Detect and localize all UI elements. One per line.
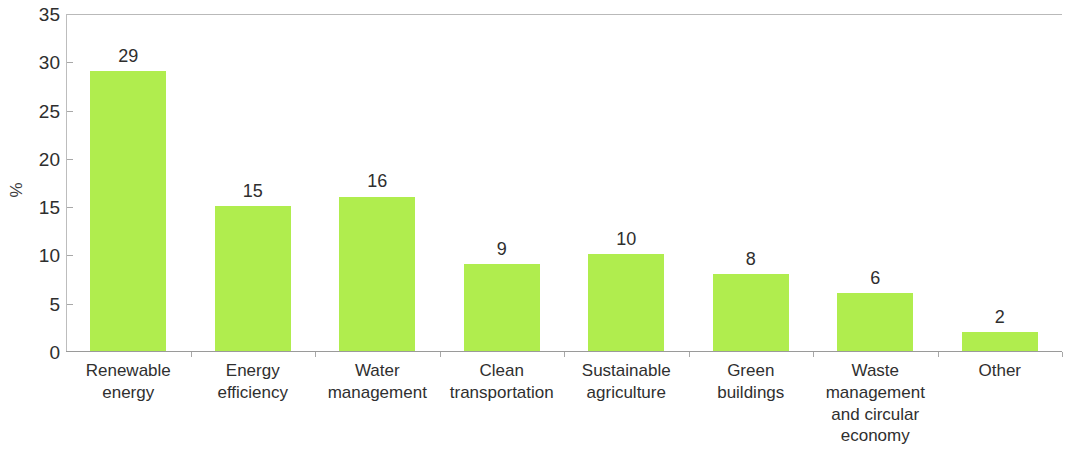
- y-tick-label: 15: [20, 198, 60, 217]
- bar: [837, 293, 913, 351]
- bar: [339, 197, 415, 352]
- y-tick-mark: [67, 111, 73, 112]
- x-category-label: Energy efficiency: [191, 360, 316, 404]
- y-tick-mark: [67, 207, 73, 208]
- y-tick-label: 0: [20, 343, 60, 362]
- bar: [90, 71, 166, 351]
- x-tick-mark: [1062, 352, 1063, 357]
- plot-top-border: [66, 14, 1062, 15]
- y-tick-mark: [67, 62, 73, 63]
- x-category-label: Green buildings: [689, 360, 814, 404]
- bar: [713, 274, 789, 351]
- bar-value-label: 6: [837, 269, 913, 287]
- y-tick-label: 30: [20, 53, 60, 72]
- y-tick-mark: [67, 255, 73, 256]
- bar-chart: % 05101520253035 291516910862 Renewable …: [0, 0, 1073, 450]
- y-tick-label: 25: [20, 101, 60, 120]
- x-tick-mark: [938, 352, 939, 357]
- x-tick-mark: [564, 352, 565, 357]
- y-tick-mark: [67, 304, 73, 305]
- y-tick-label: 5: [20, 294, 60, 313]
- y-axis-line: [66, 14, 67, 352]
- y-tick-label: 20: [20, 149, 60, 168]
- x-category-label: Renewable energy: [66, 360, 191, 404]
- bar: [464, 264, 540, 351]
- x-tick-mark: [689, 352, 690, 357]
- x-category-label: Other: [938, 360, 1063, 382]
- y-tick-label: 35: [20, 5, 60, 24]
- y-tick-mark: [67, 159, 73, 160]
- bar: [215, 206, 291, 351]
- y-axis-tick-labels: 05101520253035: [16, 0, 60, 450]
- bar: [962, 332, 1038, 351]
- x-category-label: Clean transportation: [440, 360, 565, 404]
- bar-value-label: 15: [215, 182, 291, 200]
- x-category-label: Water management: [315, 360, 440, 404]
- x-category-label: Waste management and circular economy: [813, 360, 938, 447]
- y-tick-label: 10: [20, 246, 60, 265]
- x-tick-mark: [440, 352, 441, 357]
- plot-area: 291516910862: [66, 14, 1062, 352]
- x-tick-mark: [813, 352, 814, 357]
- bar-value-label: 29: [90, 47, 166, 65]
- bar-value-label: 8: [713, 250, 789, 268]
- bar-value-label: 2: [962, 308, 1038, 326]
- bar-value-label: 16: [339, 172, 415, 190]
- bar: [588, 254, 664, 351]
- bar-value-label: 10: [588, 230, 664, 248]
- x-category-label: Sustainable agriculture: [564, 360, 689, 404]
- x-tick-mark: [315, 352, 316, 357]
- bar-value-label: 9: [464, 240, 540, 258]
- x-tick-mark: [191, 352, 192, 357]
